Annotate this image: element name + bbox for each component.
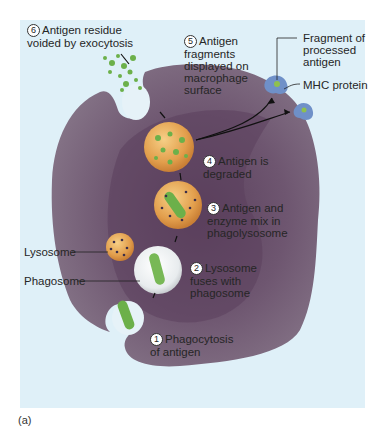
lysosome-label: Lysosome	[24, 246, 76, 258]
figure-caption: (a)	[18, 414, 31, 426]
step-1-label: 1Phagocytosis of antigen	[150, 333, 233, 358]
step-2-label: 2Lysosome fuses with phagosome	[190, 262, 257, 299]
phagolysosome	[154, 181, 202, 229]
lysosome	[106, 233, 134, 261]
step-5-label: 5Antigen fragments displayed on macropha…	[184, 35, 249, 96]
degraded-antigen-vesicle	[144, 122, 194, 172]
step-6-label: 6Antigen residue voided by exocytosis	[27, 24, 133, 49]
fragment-label: Fragment of processed antigen	[303, 32, 365, 68]
phagosome-label: Phagosome	[24, 275, 85, 287]
phagosome	[134, 246, 182, 294]
step-3-label: 3Antigen and enzyme mix in phagolysosome	[207, 202, 288, 239]
step-4-label: 4Antigen is degraded	[203, 155, 269, 180]
mhc-protein-label: MHC protein	[303, 79, 368, 91]
